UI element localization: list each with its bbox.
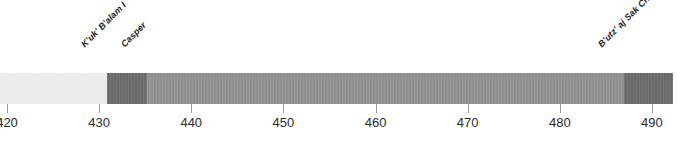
axis-tick-label: 440 xyxy=(180,115,202,130)
reign-segment-b-utz-aj-sak-chiik[interactable] xyxy=(624,73,673,104)
reign-segment-k-uk-b-alam-i[interactable] xyxy=(107,73,148,104)
reign-bar xyxy=(0,73,677,104)
axis-tick-label: 450 xyxy=(273,115,295,130)
axis-tick xyxy=(99,104,100,113)
axis-tick-label: 470 xyxy=(457,115,479,130)
axis-tick-label: 430 xyxy=(88,115,110,130)
axis-tick-label: 490 xyxy=(641,115,663,130)
axis-tick xyxy=(7,104,8,113)
axis-tick-label: 480 xyxy=(549,115,571,130)
axis-tick xyxy=(652,104,653,113)
axis-tick xyxy=(283,104,284,113)
axis-tick xyxy=(468,104,469,113)
ruler-timeline-chart: K'uk' B'alam ICasperB'utz' aj Sak Chiik … xyxy=(0,0,677,143)
reign-segment-casper[interactable] xyxy=(147,73,624,104)
axis-tick-label: 460 xyxy=(365,115,387,130)
year-axis: 420430440450460470480490 xyxy=(0,104,677,143)
ruler-label: B'utz' aj Sak Chiik xyxy=(575,0,677,71)
axis-tick-label: 420 xyxy=(0,115,18,130)
axis-tick xyxy=(376,104,377,113)
axis-tick xyxy=(560,104,561,113)
axis-tick xyxy=(191,104,192,113)
reign-segment-unlabeled[interactable] xyxy=(0,73,107,104)
